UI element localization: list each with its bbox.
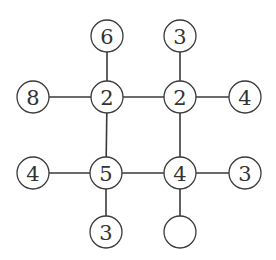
node-n-bottom-left: 3	[90, 216, 122, 248]
node-n-center-ll: 5	[90, 157, 122, 189]
node-n-right-upper: 4	[229, 81, 261, 113]
number-graph-diagram: 63822445433	[0, 0, 276, 260]
node-label: 4	[26, 162, 39, 186]
node-label: 3	[238, 162, 251, 186]
node-label: 2	[173, 86, 186, 110]
node-label: 3	[173, 25, 186, 49]
node-n-left-lower: 4	[17, 157, 49, 189]
node-label: 4	[238, 86, 251, 110]
node-n-center-ur: 2	[164, 81, 196, 113]
node-label: 4	[173, 162, 186, 186]
node-n-center-lr: 4	[164, 157, 196, 189]
node-n-left-upper: 8	[17, 81, 49, 113]
node-n-bottom-right	[164, 216, 196, 248]
node-circle	[164, 216, 196, 248]
node-n-top-right: 3	[164, 20, 196, 52]
node-label: 3	[99, 221, 112, 245]
node-n-right-lower: 3	[229, 157, 261, 189]
nodes-layer: 63822445433	[17, 20, 261, 248]
node-label: 6	[100, 25, 113, 49]
node-n-center-ul: 2	[91, 81, 123, 113]
node-label: 5	[99, 162, 112, 186]
node-n-top-left: 6	[91, 20, 123, 52]
node-label: 2	[100, 86, 113, 110]
node-label: 8	[26, 86, 39, 110]
edges-layer	[33, 36, 245, 232]
